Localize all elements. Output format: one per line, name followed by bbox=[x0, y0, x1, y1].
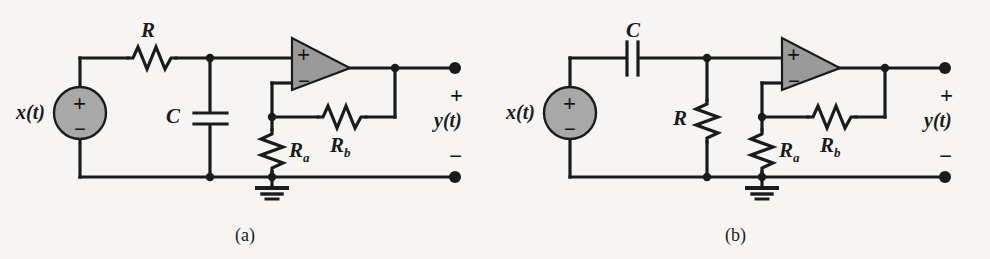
panel-b-ra-base: R bbox=[779, 138, 793, 162]
panel-b-output-minus-sign: − bbox=[939, 145, 952, 168]
panel-b-resistor-rb-label: Rb bbox=[820, 135, 841, 159]
panel-a-resistor-rb-label: Rb bbox=[330, 135, 351, 159]
panel-a-output-minus-sign: − bbox=[449, 145, 462, 168]
panel-b-source-label: x(t) bbox=[506, 102, 535, 122]
panel-a-opamp-noninverting-input-sign: + bbox=[297, 43, 310, 66]
panel-b-source-plus-sign: + bbox=[563, 92, 576, 115]
panel-a-output-plus-sign: + bbox=[450, 84, 463, 107]
panel-b-rb-subscript: b bbox=[834, 145, 841, 160]
panel-a-rb-base: R bbox=[330, 133, 344, 157]
panel-a-output-label: y(t) bbox=[434, 110, 462, 130]
panel-a-caption: (a) bbox=[235, 226, 255, 244]
panel-b-caption: (b) bbox=[725, 226, 746, 244]
panel-a-rb-subscript: b bbox=[344, 145, 351, 160]
panel-a-capacitor-c-label: C bbox=[166, 106, 180, 127]
circuit-figure: x(t) + − R C + − Ra Rb + y(t) − (a) x(t)… bbox=[0, 0, 990, 259]
panel-b-resistor-r-label: R bbox=[673, 108, 687, 129]
panel-b-output-label: y(t) bbox=[924, 110, 952, 130]
panel-a-source-label: x(t) bbox=[16, 102, 45, 122]
panel-a-ra-subscript: a bbox=[303, 150, 310, 165]
panel-b-output-plus-sign: + bbox=[940, 84, 953, 107]
panel-b-source-minus-sign: − bbox=[564, 119, 576, 140]
panel-b-rb-base: R bbox=[820, 133, 834, 157]
panel-a-resistor-r-label: R bbox=[141, 20, 155, 41]
panel-a-source-minus-sign: − bbox=[74, 119, 86, 140]
panel-a-source-plus-sign: + bbox=[73, 92, 86, 115]
panel-a-opamp-inverting-input-sign: − bbox=[298, 71, 310, 92]
panel-a-ra-base: R bbox=[289, 138, 303, 162]
panel-b-ra-subscript: a bbox=[793, 150, 800, 165]
panel-b-resistor-ra-label: Ra bbox=[779, 140, 800, 164]
panel-b-opamp-noninverting-input-sign: + bbox=[787, 43, 800, 66]
panel-b-opamp-inverting-input-sign: − bbox=[788, 71, 800, 92]
panel-b-capacitor-c-label: C bbox=[626, 20, 640, 41]
panel-a-resistor-ra-label: Ra bbox=[289, 140, 310, 164]
